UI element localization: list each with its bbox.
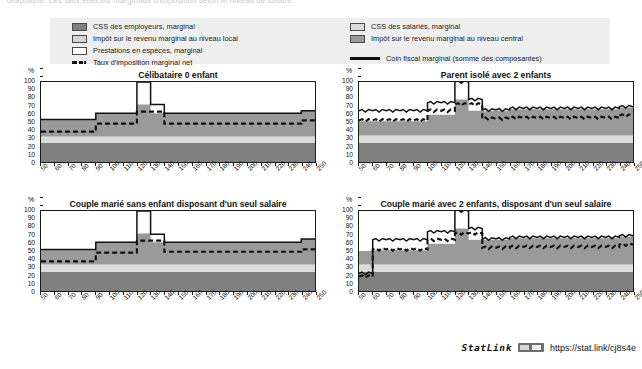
area-employee-css xyxy=(359,136,633,143)
area-employee-css xyxy=(41,136,315,142)
y-tick-label: 80 xyxy=(346,94,353,101)
y-tick-mark xyxy=(358,76,361,77)
plot-area xyxy=(40,210,316,292)
chart-panel-couple-marie-2-enfants-un-salaire: %Couple marié avec 2 enfants, disposant … xyxy=(324,197,638,321)
x-axis: 5060708090100110120130140150160170180190… xyxy=(40,292,316,320)
y-tick-label: 0 xyxy=(31,160,35,167)
y-tick-label: 50 xyxy=(346,248,353,255)
area-employer-css xyxy=(359,143,633,162)
y-tick-label: 60 xyxy=(28,240,35,247)
y-axis-unit-label: % xyxy=(28,67,34,74)
area-central-income-tax xyxy=(359,100,633,136)
chart-legend: CSS des employeurs, marginal Impôt sur l… xyxy=(50,18,610,64)
x-tick-label: 90 xyxy=(94,291,104,301)
y-tick-label: 100 xyxy=(24,78,35,85)
y-tick-label: 40 xyxy=(28,127,35,134)
y-tick-label: 100 xyxy=(342,207,353,214)
legend-solid-line-icon xyxy=(350,55,380,63)
y-tick-label: 0 xyxy=(349,160,353,167)
chart-page: Graphique. Les taux effectifs marginaux … xyxy=(0,0,642,369)
legend-item-marginal-tax-wedge: Coin fiscal marginal (somme des composan… xyxy=(350,53,542,64)
y-tick-label: 0 xyxy=(31,289,35,296)
x-tick-label: 80 xyxy=(398,291,408,301)
legend-item-cash-benefits: Prestations en espèces, marginal xyxy=(72,45,238,56)
legend-label-net-marginal-tax-rate: Taux d'imposition marginal net xyxy=(93,58,192,67)
y-tick-label: 0 xyxy=(349,289,353,296)
chart-panel-celibataire-0-enfant: %Célibataire 0 enfant0102030405060708090… xyxy=(6,68,320,192)
x-tick-label: 80 xyxy=(80,162,90,172)
x-axis: 5060708090100110120130140150160170180190… xyxy=(358,163,634,191)
legend-swatch-central-income-tax xyxy=(350,35,365,43)
y-tick-label: 60 xyxy=(346,240,353,247)
y-tick-label: 80 xyxy=(346,223,353,230)
legend-label-marginal-tax-wedge: Coin fiscal marginal (somme des composan… xyxy=(386,54,542,63)
y-tick-mark xyxy=(40,68,43,69)
area-employer-css xyxy=(41,143,315,162)
y-tick-label: 40 xyxy=(346,127,353,134)
legend-dashed-line-icon xyxy=(72,59,87,67)
plot-frame xyxy=(358,210,634,292)
y-axis: 0102030405060708090100 xyxy=(324,210,358,292)
area-employer-css xyxy=(41,272,315,291)
y-tick-label: 100 xyxy=(342,78,353,85)
y-tick-mark xyxy=(358,197,361,198)
y-tick-label: 10 xyxy=(346,152,353,159)
statlink-url[interactable]: https://stat.link/cj8s4e xyxy=(550,343,636,353)
y-tick-label: 70 xyxy=(28,231,35,238)
legend-label-central-income-tax: Impôt sur le revenu marginal au niveau c… xyxy=(371,34,523,43)
y-tick-label: 80 xyxy=(28,94,35,101)
y-tick-mark xyxy=(358,205,361,206)
x-tick-label: 80 xyxy=(398,162,408,172)
y-tick-label: 60 xyxy=(28,111,35,118)
y-tick-label: 100 xyxy=(24,207,35,214)
x-tick-label: 250 xyxy=(633,288,642,300)
panel-title: Couple marié avec 2 enfants, disposant d… xyxy=(358,199,634,209)
y-tick-label: 90 xyxy=(346,86,353,93)
y-tick-label: 20 xyxy=(346,272,353,279)
legend-column-right: CSS des salariés, marginal Impôt sur le … xyxy=(350,21,542,65)
x-tick-label: 90 xyxy=(412,291,422,301)
plot-area xyxy=(358,81,634,163)
x-tick-label: 250 xyxy=(633,159,642,171)
statlink-badge-icon xyxy=(518,343,544,352)
y-tick-label: 90 xyxy=(28,86,35,93)
area-employer-css xyxy=(359,272,633,291)
area-employee-css xyxy=(41,265,315,272)
y-tick-mark xyxy=(40,76,43,77)
y-tick-label: 50 xyxy=(28,248,35,255)
legend-label-employer-css: CSS des employeurs, marginal xyxy=(93,22,195,31)
legend-label-cash-benefits: Prestations en espèces, marginal xyxy=(93,46,202,55)
y-axis-unit-label: % xyxy=(28,196,34,203)
x-axis: 5060708090100110120130140150160170180190… xyxy=(358,292,634,320)
plot-area xyxy=(358,210,634,292)
statlink[interactable]: StatLink https://stat.link/cj8s4e xyxy=(461,342,636,353)
legend-item-net-marginal-tax-rate: Taux d'imposition marginal net xyxy=(72,57,238,68)
legend-item-central-income-tax: Impôt sur le revenu marginal au niveau c… xyxy=(350,33,542,44)
legend-column-left: CSS des employeurs, marginal Impôt sur l… xyxy=(72,21,238,69)
panel-title: Célibataire 0 enfant xyxy=(40,70,316,80)
y-tick-label: 40 xyxy=(346,256,353,263)
y-tick-label: 20 xyxy=(28,143,35,150)
y-tick-label: 20 xyxy=(28,272,35,279)
plot-area xyxy=(40,81,316,163)
x-tick-label: 80 xyxy=(80,291,90,301)
y-tick-label: 50 xyxy=(28,119,35,126)
y-tick-label: 40 xyxy=(28,256,35,263)
y-tick-label: 60 xyxy=(346,111,353,118)
y-tick-label: 80 xyxy=(28,223,35,230)
panel-title: Parent isolé avec 2 enfants xyxy=(358,70,634,80)
y-tick-label: 10 xyxy=(28,152,35,159)
x-axis: 5060708090100110120130140150160170180190… xyxy=(40,163,316,191)
y-axis: 0102030405060708090100 xyxy=(324,81,358,163)
legend-item-employer-css: CSS des employeurs, marginal xyxy=(72,21,238,32)
y-tick-label: 30 xyxy=(346,135,353,142)
chart-panels: %Célibataire 0 enfant0102030405060708090… xyxy=(0,68,642,326)
legend-swatch-employer-css xyxy=(72,23,87,31)
chart-panel-parent-isole-2-enfants: %Parent isolé avec 2 enfants010203040506… xyxy=(324,68,638,192)
y-tick-label: 50 xyxy=(346,119,353,126)
chart-panel-couple-marie-sans-enfant-un-salaire: %Couple marié sans enfant disposant d'un… xyxy=(6,197,320,321)
y-axis: 0102030405060708090100 xyxy=(6,210,40,292)
legend-item-local-income-tax: Impôt sur le revenu marginal au niveau l… xyxy=(72,33,238,44)
x-tick-label: 90 xyxy=(94,162,104,172)
y-tick-label: 10 xyxy=(28,281,35,288)
